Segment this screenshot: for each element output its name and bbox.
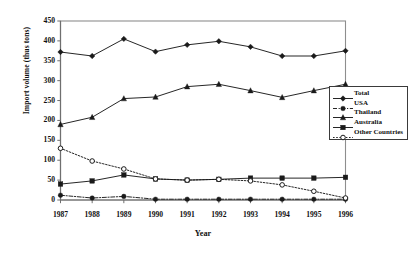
legend-marker-icon (332, 128, 354, 137)
legend-item-thailand[interactable]: Thailand (331, 108, 406, 118)
legend-label: Australia (354, 119, 382, 126)
legend-item-total[interactable]: Total (331, 89, 406, 99)
x-axis-tick-labels: 1987198819891990199119921993199419951996 (0, 205, 412, 221)
legend-marker-icon (332, 108, 354, 117)
x-axis-title: Year (60, 229, 346, 238)
series-total (58, 36, 348, 59)
legend-label: Thailand (354, 109, 381, 116)
legend-label: USA (354, 100, 368, 107)
legend-item-usa[interactable]: USA (331, 99, 406, 109)
series-layer (58, 36, 348, 201)
series-other-countries (58, 146, 348, 200)
chart-legend: TotalUSAThailandAustraliaOther Countries (329, 86, 408, 140)
chart-figure: Import volume (thus tons) 05010015020025… (0, 0, 412, 253)
legend-label: Other Countries (354, 129, 403, 136)
legend-marker-icon (332, 89, 354, 98)
legend-marker-icon (332, 118, 354, 127)
legend-item-other-countries[interactable]: Other Countries (331, 127, 406, 137)
legend-item-australia[interactable]: Australia (331, 118, 406, 128)
legend-label: Total (354, 90, 369, 97)
legend-marker-icon (332, 99, 354, 108)
x-tick-label: 1996 (326, 211, 366, 219)
series-thailand (58, 81, 348, 126)
